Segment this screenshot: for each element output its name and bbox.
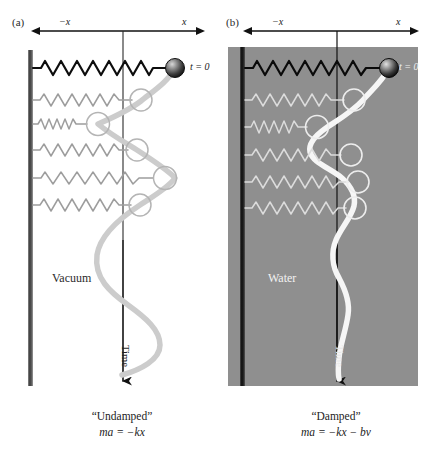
panel-b-t0-label: t = 0 xyxy=(399,61,419,72)
panel-a-wall xyxy=(28,50,33,386)
panel-a-trajectory xyxy=(97,68,175,375)
panel-b-wall xyxy=(240,47,245,386)
panel-b-caption-name: “Damped” xyxy=(243,409,428,425)
panel-a-medium-label: Vacuum xyxy=(52,271,91,286)
panel-a-mass-t0 xyxy=(166,59,185,78)
panel-b-axis-right-label: x xyxy=(396,16,400,27)
panel-a-axis-right-label: x xyxy=(182,16,186,27)
panel-b-medium-label: Water xyxy=(268,271,296,286)
panel-a-label: (a) xyxy=(12,16,24,28)
panel-a-group xyxy=(28,31,196,386)
panel-a-spring-3 xyxy=(33,139,148,161)
panel-a-axis-left-label: −x xyxy=(59,16,70,27)
figure-canvas xyxy=(0,0,428,468)
panel-a-caption: “Undamped” ma = −kx xyxy=(34,409,210,440)
panel-b-group xyxy=(228,31,418,386)
panel-b-axis-left-label: −x xyxy=(272,16,283,27)
panel-a-spring-1 xyxy=(33,89,152,111)
panel-a-caption-name: “Undamped” xyxy=(34,409,210,425)
panel-b-mass-t0 xyxy=(380,59,399,78)
panel-b-label: (b) xyxy=(226,16,239,28)
panel-a-spring-0 xyxy=(33,61,169,75)
panel-a-spring-4 xyxy=(33,167,177,190)
panel-a-time-label: Time xyxy=(120,345,131,367)
panel-b-caption: “Damped” ma = −kx − bv xyxy=(243,409,428,440)
panel-a-t0-label: t = 0 xyxy=(190,61,210,72)
panel-b-caption-equation: ma = −kx − bv xyxy=(243,425,428,441)
oscillation-figure: (a) −x x t = 0 Vacuum Time “Undamped” ma… xyxy=(0,0,428,468)
panel-b-time-label: Time xyxy=(334,345,345,367)
panel-a-caption-equation: ma = −kx xyxy=(34,425,210,441)
